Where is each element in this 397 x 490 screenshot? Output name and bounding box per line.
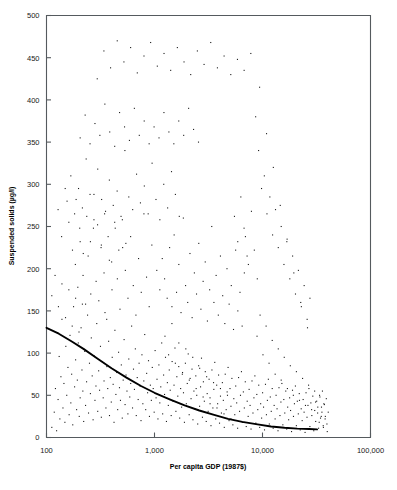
- scatter-point: [122, 418, 123, 419]
- y-tick-label: 500: [27, 11, 40, 20]
- scatter-point: [81, 369, 82, 370]
- scatter-point: [99, 135, 100, 136]
- x-tick-label: 100: [40, 446, 53, 455]
- scatter-point: [198, 243, 199, 244]
- x-tick-label: 10,000: [251, 446, 274, 455]
- scatter-point: [128, 196, 129, 197]
- scatter-point: [237, 59, 238, 60]
- scatter-point: [171, 171, 172, 172]
- scatter-point: [178, 120, 179, 121]
- scatter-point: [103, 272, 104, 273]
- scatter-point: [163, 53, 164, 54]
- scatter-point: [327, 431, 328, 432]
- scatter-point: [104, 312, 105, 313]
- scatter-point: [151, 245, 152, 246]
- scatter-point: [259, 87, 260, 88]
- scatter-point: [136, 415, 137, 416]
- scatter-point: [147, 392, 148, 393]
- scatter-point: [307, 405, 308, 406]
- scatter-point: [196, 293, 197, 294]
- scatter-point: [129, 396, 130, 397]
- scatter-point: [174, 347, 175, 348]
- scatter-point: [246, 426, 247, 427]
- scatter-point: [171, 323, 172, 324]
- scatter-point: [174, 234, 175, 235]
- scatter-point: [92, 375, 93, 376]
- scatter-point: [109, 131, 110, 132]
- scatter-point: [277, 408, 278, 409]
- scatter-point: [304, 285, 305, 286]
- scatter-point: [79, 416, 80, 417]
- scatter-point: [266, 326, 267, 327]
- scatter-point: [156, 397, 157, 398]
- scatter-point: [134, 108, 135, 109]
- scatter-point: [144, 334, 145, 335]
- scatter-point: [100, 346, 101, 347]
- scatter-point: [118, 352, 119, 353]
- scatter-point: [298, 270, 299, 271]
- scatter-point: [181, 407, 182, 408]
- scatter-point: [176, 376, 177, 377]
- scatter-point: [101, 199, 102, 200]
- scatter-point: [156, 379, 157, 380]
- scatter-point: [115, 394, 116, 395]
- scatter-point: [176, 292, 177, 293]
- scatter-point: [123, 61, 124, 62]
- scatter-point: [170, 390, 171, 391]
- scatter-point: [114, 330, 115, 331]
- scatter-point: [272, 234, 273, 235]
- scatter-point: [326, 398, 327, 399]
- scatter-point: [213, 389, 214, 390]
- scatter-point: [244, 407, 245, 408]
- scatter-point: [55, 388, 56, 389]
- y-axis-title: Suspended solids (µg/l): [8, 187, 16, 266]
- scatter-point: [321, 407, 322, 408]
- scatter-point: [117, 40, 118, 41]
- scatter-point: [224, 55, 225, 56]
- scatter-point: [93, 228, 94, 229]
- scatter-point: [274, 405, 275, 406]
- scatter-point: [323, 403, 324, 404]
- scatter-point: [308, 385, 309, 386]
- scatter-point: [306, 417, 307, 418]
- scatter-point: [51, 427, 52, 428]
- scatter-point: [162, 413, 163, 414]
- scatter-point: [70, 175, 71, 176]
- scatter-point: [185, 363, 186, 364]
- scatter-point: [290, 365, 291, 366]
- scatter-point: [148, 360, 149, 361]
- scatter-point: [141, 354, 142, 355]
- scatter-point: [302, 420, 303, 421]
- scatter-point: [111, 289, 112, 290]
- scatter-point: [163, 184, 164, 185]
- scatter-point: [152, 367, 153, 368]
- y-tick-label: 0: [35, 433, 39, 442]
- scatter-point: [173, 143, 174, 144]
- scatter-point: [158, 364, 159, 365]
- scatter-point: [305, 392, 306, 393]
- scatter-point: [264, 175, 265, 176]
- scatter-point: [169, 247, 170, 248]
- scatter-point: [278, 348, 279, 349]
- scatter-point: [165, 357, 166, 358]
- scatter-point: [252, 412, 253, 413]
- scatter-point: [166, 421, 167, 422]
- scatter-point: [229, 304, 230, 305]
- scatter-point: [237, 310, 238, 311]
- scatter-point: [104, 104, 105, 105]
- scatter-point: [190, 378, 191, 379]
- scatter-point: [315, 421, 316, 422]
- scatter-point: [234, 216, 235, 217]
- scatter-point: [309, 298, 310, 299]
- scatter-point: [278, 387, 279, 388]
- scatter-point: [205, 371, 206, 372]
- scatter-point: [56, 430, 57, 431]
- scatter-point: [126, 391, 127, 392]
- scatter-point: [209, 397, 210, 398]
- scatter-point: [207, 320, 208, 321]
- scatter-point: [164, 394, 165, 395]
- scatter-point: [272, 340, 273, 341]
- scatter-point: [311, 409, 312, 410]
- scatter-point: [103, 380, 104, 381]
- scatter-point: [191, 369, 192, 370]
